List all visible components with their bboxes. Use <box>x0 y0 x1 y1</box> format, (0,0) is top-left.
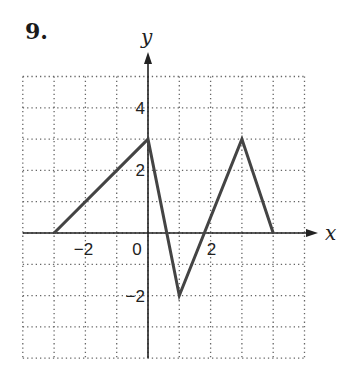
x-axis-label: x <box>325 221 336 245</box>
y-tick-label: −2 <box>126 287 145 306</box>
x-tick-label: 2 <box>207 240 216 259</box>
coordinate-plot: −20242−2 x y <box>0 0 353 384</box>
x-tick-label: 0 <box>132 240 141 259</box>
y-axis-arrow-icon <box>144 52 152 64</box>
y-axis-label: y <box>140 25 153 49</box>
x-axis-arrow-icon <box>306 229 318 237</box>
x-tick-label: −2 <box>74 240 93 259</box>
y-tick-label: 4 <box>136 99 145 118</box>
y-tick-label: 2 <box>136 161 145 180</box>
function-graph <box>54 139 273 296</box>
axes <box>23 52 318 358</box>
